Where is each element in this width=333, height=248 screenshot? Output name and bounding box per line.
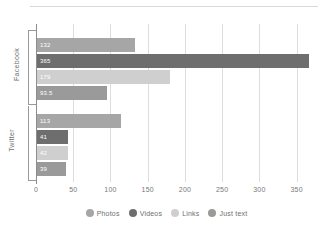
top-divider: [30, 6, 318, 7]
bar-facebook-photos: 132: [37, 38, 135, 52]
x-tick-label-350: 350: [282, 186, 312, 193]
x-tick-label-0: 0: [21, 186, 51, 193]
bar-value-label: 113: [40, 118, 50, 124]
bar-twitter-photos: 113: [37, 114, 121, 128]
legend-item-videos[interactable]: Videos: [129, 209, 162, 217]
y-axis-label-facebook: Facebook: [0, 61, 14, 68]
legend-label: Photos: [97, 210, 120, 217]
legend-label: Links: [182, 210, 199, 217]
group-spine-twitter: [28, 106, 29, 180]
bar-value-label: 93.5: [40, 90, 52, 96]
bar-twitter-just-text: 39: [37, 162, 66, 176]
legend-swatch-circle-icon: [129, 209, 137, 217]
legend-swatch-circle-icon: [171, 209, 179, 217]
legend-item-links[interactable]: Links: [171, 209, 199, 217]
gridline-x-250: [222, 24, 223, 182]
chart-container: Facebook Twitter 13236517993.5113414239 …: [0, 0, 333, 248]
gridline-x-350: [297, 24, 298, 182]
bar-value-label: 41: [40, 134, 47, 140]
x-tick-label-50: 50: [58, 186, 88, 193]
group-spine-facebook: [28, 30, 29, 104]
bar-twitter-links: 42: [37, 146, 68, 160]
bar-facebook-just-text: 93.5: [37, 86, 107, 100]
bar-value-label: 132: [40, 42, 51, 48]
y-axis-label-facebook-text: Facebook: [13, 48, 20, 81]
bar-value-label: 42: [40, 150, 47, 156]
x-tick-label-300: 300: [244, 186, 274, 193]
legend-swatch-circle-icon: [86, 209, 94, 217]
legend-label: Videos: [140, 210, 162, 217]
group-tick-facebook-top: [28, 30, 36, 31]
legend-swatch-circle-icon: [208, 209, 216, 217]
plot-area: 13236517993.5113414239: [36, 24, 319, 182]
x-tick-label-150: 150: [133, 186, 163, 193]
y-axis-label-twitter-text: Twitter: [8, 129, 15, 152]
group-tick-facebook-bottom: [28, 104, 36, 105]
bar-value-label: 365: [40, 58, 51, 64]
gridline-x-150: [148, 24, 149, 182]
chart-legend: PhotosVideosLinksJust text: [0, 209, 333, 217]
legend-item-photos[interactable]: Photos: [86, 209, 120, 217]
bar-facebook-videos: 365: [37, 54, 309, 68]
x-tick-label-100: 100: [95, 186, 125, 193]
legend-label: Just text: [219, 210, 247, 217]
gridline-x-300: [259, 24, 260, 182]
bar-value-label: 39: [40, 166, 47, 172]
legend-item-just-text[interactable]: Just text: [208, 209, 247, 217]
x-tick-label-250: 250: [207, 186, 237, 193]
bar-value-label: 179: [40, 74, 51, 80]
gridline-x-200: [185, 24, 186, 182]
y-axis-label-twitter: Twitter: [0, 137, 14, 144]
group-tick-twitter-bottom: [28, 180, 36, 181]
x-tick-label-200: 200: [170, 186, 200, 193]
bar-twitter-videos: 41: [37, 130, 68, 144]
bar-facebook-links: 179: [37, 70, 170, 84]
